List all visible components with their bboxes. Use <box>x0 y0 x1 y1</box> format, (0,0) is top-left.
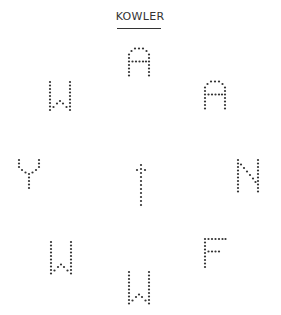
dotted-letter-n-right <box>236 158 260 194</box>
dotted-letter-a-top <box>127 47 151 79</box>
dotted-letter-a-upper-right <box>203 80 227 112</box>
dotted-letter-w-upper-left <box>48 80 72 112</box>
dotted-letter-w-bottom <box>127 270 151 306</box>
dotted-cross-center <box>135 163 147 207</box>
dotted-letter-y-left <box>17 158 41 190</box>
diagram-title: KOWLER <box>104 10 176 23</box>
dotted-letter-w-lower-left <box>49 240 73 276</box>
title-underline <box>117 28 161 29</box>
dotted-letter-f-lower-right <box>203 237 227 271</box>
